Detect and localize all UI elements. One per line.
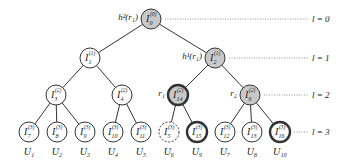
level-2-label: l = 2 (312, 90, 330, 100)
edge-I14-I5 (171, 105, 175, 123)
level-0-label: l = 0 (312, 14, 330, 24)
edge-I6-I16 (256, 103, 273, 124)
edge-I14-I15 (183, 104, 193, 123)
node-subscript: 13 (251, 133, 257, 139)
hierarchical-tree-diagram: l = 0l = 1l = 2l = 3 I(0)0h²(r₁)I(1)1I(1… (0, 0, 347, 168)
user-label: U₄ (108, 146, 119, 157)
tree-nodes: I(0)0h²(r₁)I(1)1I(1)2h¹(r₁)I(2)3I(2)4I(2… (19, 9, 290, 157)
edge-I4-I11 (127, 104, 137, 123)
node-side-label: h²(r₁) (118, 12, 138, 22)
node-I14: I(2)14r₁ (158, 85, 188, 105)
user-label: U₅ (136, 146, 147, 157)
node-subscript: 14 (177, 96, 183, 102)
node-superscript: (3) (224, 124, 231, 131)
edge-I0-I2 (160, 24, 207, 53)
node-I12: I(3)12U₇ (215, 122, 235, 157)
node-superscript: (3) (196, 124, 203, 131)
edge-I1-I4 (97, 66, 116, 88)
node-I7: I(3)7U₁ (19, 122, 39, 157)
node-I1: I(1)1 (80, 48, 100, 68)
node-I6: I(2)6r₂ (230, 85, 260, 105)
edge-I3-I9 (62, 103, 79, 124)
node-side-label: r₁ (158, 88, 165, 98)
user-label: U₂ (52, 146, 63, 157)
node-I9: I(3)9U₃ (75, 122, 95, 157)
node-I13: I(3)13U₈ (242, 122, 262, 157)
node-superscript: (0) (150, 11, 157, 18)
node-subscript: 5 (168, 133, 171, 139)
node-superscript: (3) (84, 124, 91, 131)
node-side-label: h¹(r₁) (182, 51, 202, 61)
user-label: U₁ (24, 146, 35, 157)
user-label: U₆ (164, 146, 175, 157)
node-superscript: (3) (56, 124, 63, 131)
user-label: U₇ (220, 146, 231, 157)
node-subscript: 11 (140, 133, 146, 139)
node-subscript: 1 (89, 59, 92, 65)
node-I16: I(3)16U₁₀ (270, 122, 290, 157)
node-superscript: (1) (89, 50, 96, 57)
node-I8: I(3)8U₂ (47, 122, 67, 157)
level-3-label: l = 3 (312, 127, 330, 137)
node-side-label: r₂ (230, 88, 237, 98)
node-I3: I(2)3 (46, 85, 66, 105)
edge-I1-I3 (63, 65, 83, 87)
tree-edges (35, 24, 274, 124)
edge-I2-I14 (185, 65, 208, 88)
edge-I6-I12 (231, 103, 245, 123)
level-1-label: l = 1 (312, 53, 330, 63)
node-subscript: 8 (56, 133, 59, 139)
node-superscript: (3) (112, 124, 119, 131)
node-subscript: 9 (84, 133, 87, 139)
node-superscript: (3) (168, 124, 175, 131)
user-label: U₁₀ (273, 146, 288, 157)
node-I15: I(3)15U₉ (187, 122, 207, 157)
node-superscript: (3) (28, 124, 35, 131)
node-superscript: (2) (249, 87, 256, 94)
node-superscript: (2) (177, 87, 184, 94)
node-subscript: 4 (121, 96, 124, 102)
edge-I4-I10 (115, 105, 119, 123)
user-label: U₃ (80, 146, 91, 157)
node-I5: I(3)5U₆ (159, 122, 179, 157)
node-subscript: 15 (196, 133, 202, 139)
node-subscript: 0 (150, 20, 153, 26)
node-I10: I(3)10U₄ (103, 122, 123, 157)
node-superscript: (2) (55, 87, 62, 94)
node-subscript: 12 (224, 133, 230, 139)
node-superscript: (3) (251, 124, 258, 131)
node-superscript: (1) (214, 50, 221, 57)
node-subscript: 10 (112, 133, 118, 139)
node-subscript: 16 (279, 133, 285, 139)
user-label: U₈ (247, 146, 258, 157)
node-I4: I(2)4 (112, 85, 132, 105)
edge-I2-I6 (222, 65, 243, 87)
node-superscript: (2) (121, 87, 128, 94)
edge-I6-I13 (251, 105, 252, 122)
node-subscript: 3 (54, 96, 58, 102)
user-label: U₉ (192, 146, 203, 157)
node-I11: I(3)11U₅ (131, 122, 151, 157)
edge-I0-I1 (98, 24, 142, 52)
edge-I3-I7 (35, 103, 50, 124)
node-superscript: (3) (279, 124, 286, 131)
node-subscript: 2 (214, 59, 217, 65)
node-superscript: (3) (140, 124, 147, 131)
node-subscript: 6 (249, 96, 252, 102)
